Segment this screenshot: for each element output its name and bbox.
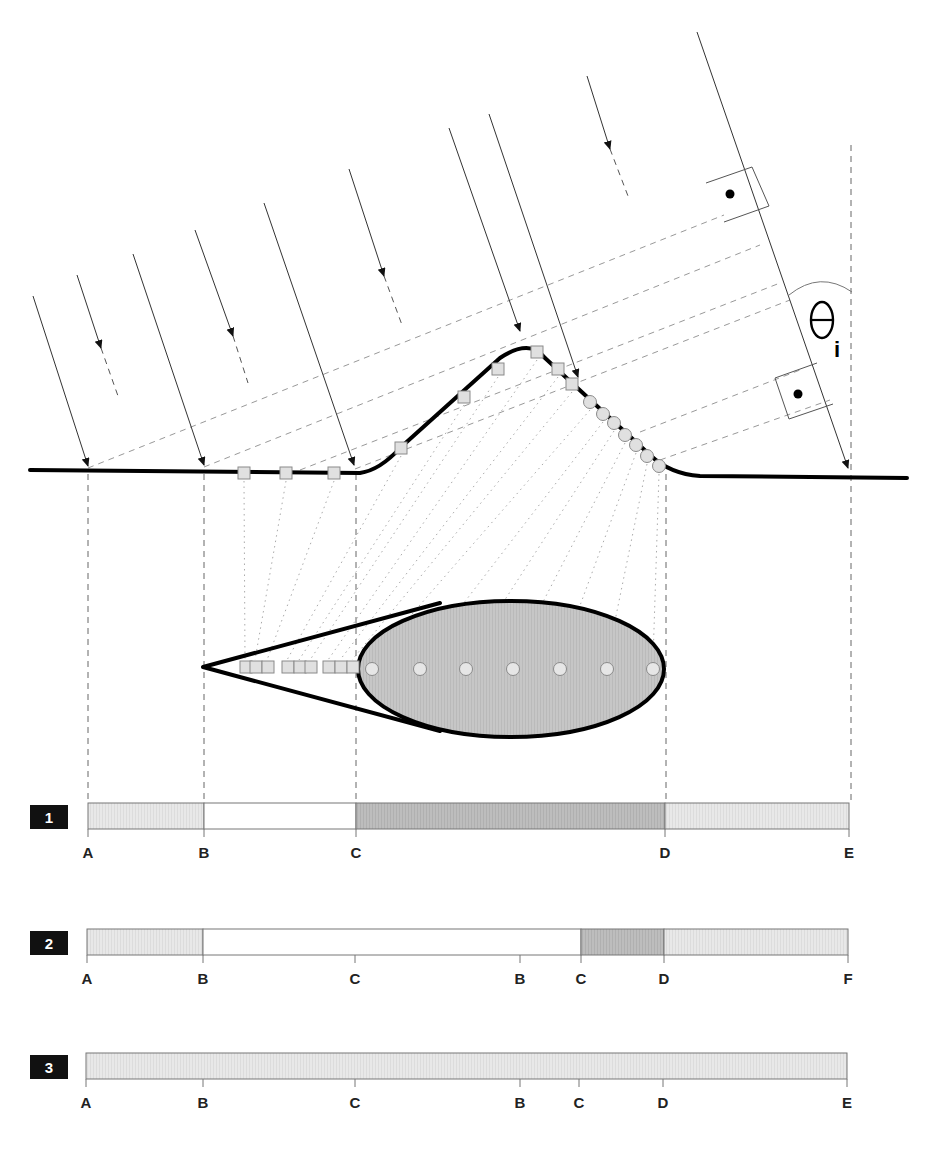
circle-marker [619,429,632,442]
short-ray-arrow [349,169,384,276]
circle-marker [653,460,666,473]
short-ray-arrow [77,275,101,348]
strip-tick-label: F [843,970,852,987]
strip-tick-label: D [658,1094,669,1111]
ground-strip-3: 3ABCBCDE [30,1053,852,1111]
incident-ray-arrow [697,32,848,468]
strip-segment-white [204,803,356,829]
incident-ray-arrow [489,114,578,377]
wavefront-line [640,370,800,432]
ground-strip-1: 1ABCDE [30,803,854,861]
image-square-marker [347,661,359,673]
strip-tick-label: B [198,970,209,987]
strip-tick-label: E [844,844,854,861]
ground-strips: 1ABCDE2ABCBCDF3ABCBCDE [30,803,854,1111]
image-circle-marker [366,663,379,676]
strip-segment-dark [581,929,664,955]
strip-tick-label: B [198,1094,209,1111]
strip-tick-label: B [199,844,210,861]
ray-continuation [101,348,118,396]
wavefront-line [204,245,760,467]
strip-segment-light [86,1053,847,1079]
ray-continuation [610,149,628,196]
strip-tick-label: A [82,970,93,987]
angle-subscript: i [834,337,840,362]
incident-ray-arrow [264,203,354,465]
strip-tick-label: C [350,970,361,987]
image-square-marker [335,661,347,673]
short-ray-arrow [587,76,610,149]
image-circle-marker [414,663,427,676]
projection-dotted-line [255,481,286,660]
image-circle-marker [460,663,473,676]
right-angle-marker-bottom [775,363,833,419]
square-marker [328,467,340,479]
image-circle-marker [647,663,660,676]
square-marker [531,346,543,358]
image-circle-marker [507,663,520,676]
terrain-square-markers [238,346,578,479]
ray-continuation [233,336,248,383]
strip-tick-label: C [351,844,362,861]
strip-number: 3 [45,1059,53,1076]
wavefront-lines [88,215,830,470]
terrain-profile [30,348,907,478]
incident-ray-arrow [449,128,520,331]
square-marker [395,442,407,454]
circle-marker [630,439,643,452]
square-marker [458,391,470,403]
incident-ray-arrow [133,254,204,465]
short-incident-rays [77,76,628,396]
image-square-marker [323,661,335,673]
image-square-markers [240,661,359,673]
image-circle-marker [554,663,567,676]
square-marker [238,467,250,479]
square-marker [552,363,564,375]
short-ray-arrow [195,230,233,336]
strip-segment-white [203,929,581,955]
image-square-marker [262,661,274,673]
incident-rays [33,32,848,468]
image-square-marker [294,661,306,673]
strip-segment-light [88,803,204,829]
image-circle-marker [601,663,614,676]
circle-marker [597,408,610,421]
strip-tick-label: C [574,1094,585,1111]
circle-marker [641,450,654,463]
strip-tick-label: C [350,1094,361,1111]
image-square-marker [250,661,262,673]
strip-segment-light [664,929,848,955]
strip-number: 2 [45,935,53,952]
ray-continuation [384,276,402,325]
strip-tick-label: A [81,1094,92,1111]
image-square-marker [305,661,317,673]
strip-number: 1 [45,809,53,826]
incidence-angle-arc [789,282,852,295]
projection-dotted-line [653,474,659,660]
image-square-marker [282,661,294,673]
strip-tick-label: B [515,970,526,987]
wavefront-line [300,283,780,470]
strip-tick-label: D [660,844,671,861]
incident-ray-arrow [33,296,88,466]
strip-segment-light [87,929,203,955]
square-marker [492,363,504,375]
projection-dotted-line [244,481,245,660]
ground-strip-2: 2ABCBCDF [30,929,853,987]
circle-marker [584,396,597,409]
strip-segment-light [665,803,849,829]
incidence-angle-label: i [811,302,840,362]
square-marker [280,467,292,479]
strip-tick-label: E [842,1094,852,1111]
strip-tick-label: A [83,844,94,861]
wavefront-line [660,400,830,460]
square-marker [566,378,578,390]
strip-segment-dark [356,803,665,829]
layover-diagram: i 1ABCDE2ABCBCDF3ABCBCDE [0,0,929,1159]
strip-tick-label: D [659,970,670,987]
strip-tick-label: C [576,970,587,987]
circle-marker [608,417,621,430]
strip-tick-label: B [515,1094,526,1111]
